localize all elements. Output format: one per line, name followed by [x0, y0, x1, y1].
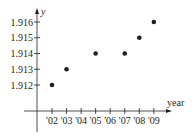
data-point — [64, 67, 69, 72]
y-ticks: 1.9121.9131.9141.9151.916 — [11, 17, 41, 91]
y-axis-arrow-icon — [35, 8, 39, 14]
y-tick-label: 1.915 — [11, 32, 34, 43]
x-tick-label: '03 — [61, 115, 73, 126]
y-tick-label: 1.916 — [11, 17, 34, 28]
scatter-chart: '02'03'04'05'06'07'08'09 1.9121.9131.914… — [0, 0, 195, 139]
data-point — [93, 51, 98, 56]
data-point — [137, 35, 142, 40]
x-axis-arrow-icon — [166, 109, 172, 113]
x-tick-label: '02 — [46, 115, 58, 126]
y-tick-label: 1.912 — [11, 80, 34, 91]
x-tick-label: '06 — [104, 115, 116, 126]
y-tick-label: 1.913 — [11, 64, 34, 75]
x-axis-title: year — [167, 97, 185, 108]
y-tick-label: 1.914 — [11, 48, 34, 59]
x-tick-label: '08 — [133, 115, 145, 126]
x-tick-label: '09 — [148, 115, 160, 126]
data-point — [122, 51, 127, 56]
x-tick-label: '04 — [75, 115, 87, 126]
data-points — [50, 20, 156, 88]
axes — [24, 8, 172, 132]
x-tick-label: '05 — [90, 115, 102, 126]
data-point — [152, 20, 157, 25]
y-axis-title: y — [40, 6, 46, 17]
data-point — [50, 83, 55, 88]
x-tick-label: '07 — [119, 115, 131, 126]
